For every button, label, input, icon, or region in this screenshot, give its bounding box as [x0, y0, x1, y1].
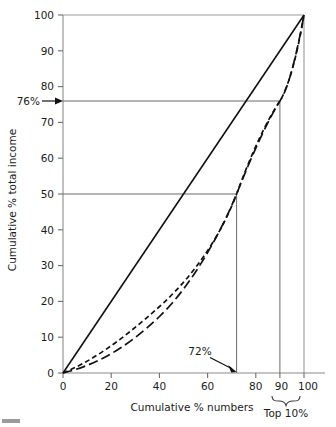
x-tick-label: 90 [275, 380, 288, 392]
y-tick-label: 0 [47, 367, 54, 379]
y-tick-label: 70 [41, 116, 54, 128]
annotation-72-percent: 72% [188, 345, 236, 373]
annotation-72-percent-arrow-line [210, 358, 232, 369]
x-axis-title: Cumulative % numbers [130, 401, 253, 413]
y-axis-ticks [58, 15, 63, 373]
x-tick-label: 40 [153, 380, 166, 392]
x-tick-label: 100 [298, 380, 318, 392]
y-tick-label: 80 [41, 80, 54, 92]
x-tick-label: 20 [105, 380, 118, 392]
y-tick-label: 50 [41, 188, 54, 200]
annotation-72-percent-arrow-head [228, 365, 236, 373]
annotation-76-percent-label: 76% [17, 95, 40, 107]
y-tick-label: 40 [41, 224, 54, 236]
page-corner-mark [2, 419, 20, 423]
y-axis-title: Cumulative % total income [6, 129, 18, 271]
x-tick-labels: 0 20 40 60 80 90 100 [60, 380, 318, 392]
y-tick-label: 30 [41, 259, 54, 271]
annotation-76-percent-arrow-head [55, 98, 63, 105]
top-decile-bracket-icon [272, 396, 300, 406]
x-tick-label: 80 [249, 380, 262, 392]
annotation-76-percent: 76% [17, 95, 63, 107]
chart-page: 100 90 80 70 60 50 40 30 20 10 0 0 20 40 [0, 0, 336, 427]
y-tick-label: 20 [41, 295, 54, 307]
y-tick-label: 100 [34, 9, 54, 21]
guide-lines [63, 101, 280, 373]
y-tick-label: 90 [41, 45, 54, 57]
lorenz-curve-chart: 100 90 80 70 60 50 40 30 20 10 0 0 20 40 [0, 0, 336, 427]
y-tick-label: 10 [41, 331, 54, 343]
y-tick-label: 60 [41, 152, 54, 164]
y-tick-labels: 100 90 80 70 60 50 40 30 20 10 0 [34, 9, 54, 379]
top-decile-bracket-label: Top 10% [263, 407, 308, 419]
top-decile-bracket-group: Top 10% [263, 396, 308, 419]
x-tick-label: 0 [60, 380, 67, 392]
x-tick-label: 60 [201, 380, 214, 392]
annotation-72-percent-label: 72% [188, 345, 211, 357]
x-axis-ticks [63, 373, 304, 378]
